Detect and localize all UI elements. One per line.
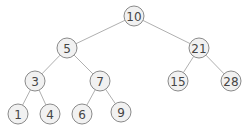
tree-diagram: 105213715281469: [0, 0, 247, 139]
tree-node-6: 6: [72, 104, 92, 124]
edges-layer: [23, 20, 224, 105]
node-label: 15: [170, 75, 185, 89]
edge-10-21: [143, 20, 190, 43]
node-label: 1: [14, 108, 22, 122]
tree-node-9: 9: [111, 102, 131, 122]
node-label: 6: [78, 108, 86, 122]
edge-7-9: [106, 89, 116, 103]
edge-3-4: [39, 90, 46, 105]
tree-node-1: 1: [8, 104, 28, 124]
nodes-layer: 105213715281469: [8, 6, 241, 124]
edge-7-6: [87, 90, 95, 105]
node-label: 3: [31, 75, 39, 89]
edge-3-1: [23, 90, 31, 105]
node-label: 10: [126, 10, 141, 24]
node-label: 9: [117, 106, 125, 120]
node-label: 5: [63, 42, 71, 56]
node-label: 4: [46, 108, 54, 122]
tree-node-28: 28: [221, 71, 241, 91]
tree-node-10: 10: [124, 6, 144, 26]
node-label: 28: [223, 75, 238, 89]
edge-5-3: [42, 55, 60, 74]
edge-21-15: [183, 56, 193, 72]
node-label: 21: [191, 42, 206, 56]
tree-svg: 105213715281469: [0, 0, 247, 139]
tree-node-5: 5: [57, 38, 77, 58]
tree-node-7: 7: [90, 71, 110, 91]
edge-10-5: [76, 20, 125, 43]
edge-21-28: [206, 55, 224, 74]
node-label: 7: [96, 75, 104, 89]
tree-node-15: 15: [168, 71, 188, 91]
tree-node-21: 21: [189, 38, 209, 58]
tree-node-3: 3: [25, 71, 45, 91]
edge-5-7: [74, 55, 93, 74]
tree-node-4: 4: [40, 104, 60, 124]
